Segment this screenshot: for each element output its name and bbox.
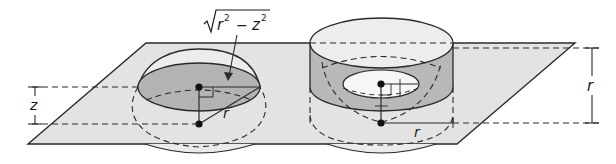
formula-r: r <box>217 16 224 34</box>
z-label: z <box>29 97 38 113</box>
r-height-label: r <box>587 77 594 95</box>
r-height-dimension: r <box>585 48 599 123</box>
z-dimension: z <box>28 87 42 124</box>
formula-exp-1: 2 <box>224 13 230 23</box>
formula-z: z <box>251 16 261 34</box>
formula-exp-2: 2 <box>261 13 267 23</box>
formula-minus: − <box>236 17 248 33</box>
sphere-bottom-arc <box>145 144 255 153</box>
disk-center-point <box>195 83 202 90</box>
base-center-point <box>377 119 384 126</box>
formula-label: r 2 − z 2 <box>204 10 270 34</box>
cavalieri-diagram: z r r 2 − z 2 <box>0 0 616 164</box>
cutting-plane <box>28 43 575 144</box>
hole-center-point <box>377 80 384 87</box>
